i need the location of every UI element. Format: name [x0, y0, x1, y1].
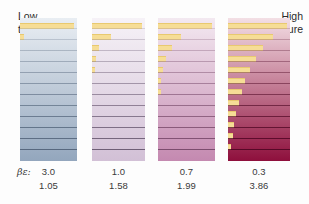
- energy-level-line: [158, 149, 215, 150]
- partition-value-2: 1.58: [89, 180, 149, 191]
- energy-level-line: [92, 72, 145, 73]
- energy-level-line: [228, 94, 290, 95]
- energy-level-line: [228, 50, 290, 51]
- energy-level-line: [228, 83, 290, 84]
- beta-epsilon-value-2: 1.0: [89, 166, 149, 177]
- energy-level-line: [92, 83, 145, 84]
- energy-level-line: [20, 105, 77, 106]
- energy-level-line: [20, 83, 77, 84]
- energy-level-line: [158, 83, 215, 84]
- energy-panel-3: [158, 18, 215, 161]
- beta-epsilon-value-4: 0.3: [229, 166, 289, 177]
- energy-level-line: [158, 28, 215, 29]
- energy-panel-2: [92, 18, 145, 161]
- energy-level-line: [20, 94, 77, 95]
- energy-level-line: [158, 72, 215, 73]
- energy-level-line: [92, 149, 145, 150]
- energy-level-line: [20, 116, 77, 117]
- energy-level-line: [158, 138, 215, 139]
- energy-levels-4: [228, 18, 290, 161]
- energy-level-line: [228, 72, 290, 73]
- energy-levels-3: [158, 18, 215, 161]
- energy-level-line: [92, 50, 145, 51]
- energy-level-line: [20, 50, 77, 51]
- partition-value-1: 1.05: [19, 180, 79, 191]
- energy-level-line: [92, 39, 145, 40]
- energy-level-line: [20, 39, 77, 40]
- energy-panel-4: [228, 18, 290, 161]
- beta-epsilon-value-3: 0.7: [157, 166, 217, 177]
- energy-level-line: [158, 39, 215, 40]
- partition-value-3: 1.99: [157, 180, 217, 191]
- energy-level-line: [92, 138, 145, 139]
- energy-level-line: [20, 149, 77, 150]
- energy-level-line: [228, 149, 290, 150]
- energy-level-line: [158, 50, 215, 51]
- energy-level-line: [20, 72, 77, 73]
- energy-level-line: [228, 138, 290, 139]
- energy-level-line: [20, 61, 77, 62]
- energy-level-line: [158, 105, 215, 106]
- energy-level-line: [92, 116, 145, 117]
- energy-level-line: [158, 116, 215, 117]
- energy-level-line: [158, 94, 215, 95]
- energy-levels-1: [20, 18, 77, 161]
- energy-level-line: [20, 127, 77, 128]
- energy-level-line: [158, 127, 215, 128]
- energy-levels-2: [92, 18, 145, 161]
- energy-level-line: [228, 116, 290, 117]
- energy-level-line: [228, 61, 290, 62]
- energy-level-line: [228, 105, 290, 106]
- energy-level-line: [20, 138, 77, 139]
- energy-level-line: [158, 61, 215, 62]
- energy-panel-1: [20, 18, 77, 161]
- energy-level-line: [92, 94, 145, 95]
- energy-level-line: [92, 61, 145, 62]
- beta-epsilon-value-1: 3.0: [19, 166, 79, 177]
- energy-level-line: [20, 28, 77, 29]
- energy-level-line: [228, 28, 290, 29]
- boltzmann-figure: Low temperature High temperature βε: 3.0…: [0, 0, 309, 204]
- energy-level-line: [228, 127, 290, 128]
- partition-value-4: 3.86: [229, 180, 289, 191]
- energy-level-line: [92, 28, 145, 29]
- energy-level-line: [228, 39, 290, 40]
- energy-level-line: [92, 127, 145, 128]
- energy-level-line: [92, 105, 145, 106]
